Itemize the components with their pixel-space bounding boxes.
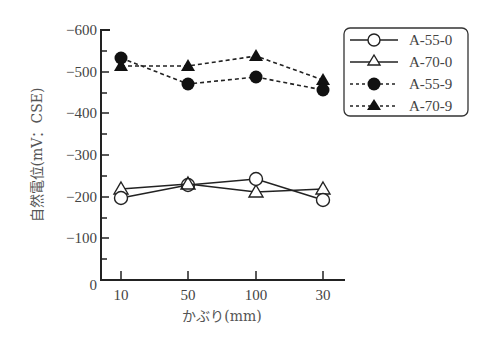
legend-label: A-55-9: [409, 76, 452, 92]
x-tick-label: 100: [245, 287, 268, 303]
x-tick-label: 50: [181, 287, 196, 303]
y-tick-label: −600: [66, 22, 97, 38]
open-triangle-marker: [316, 182, 330, 194]
series-a-55-9-markers: [115, 52, 330, 97]
series-a-70-9-line: [121, 56, 323, 80]
x-tick-label: 30: [316, 287, 331, 303]
series-a-55-0-line: [121, 179, 323, 200]
y-axis-title: 自然電位(mV：CSE): [29, 88, 45, 223]
y-tick-label: −500: [66, 64, 97, 80]
y-tick-label: −200: [66, 189, 97, 205]
series-a-70-0-line: [121, 184, 323, 192]
series-a-55-9-line: [121, 58, 323, 90]
axes: [101, 30, 345, 280]
filled-circle-icon: [368, 78, 381, 91]
open-circle-marker: [250, 173, 263, 186]
filled-triangle-marker: [249, 49, 263, 61]
legend-label: A-55-0: [409, 32, 452, 48]
y-ticks: [101, 51, 109, 259]
y-tick-label: −400: [66, 105, 97, 121]
legend: A-55-0 A-70-0 A-55-9 A-70-9: [344, 28, 468, 116]
x-ticks: [121, 271, 323, 280]
y-tick-label: −100: [66, 230, 97, 246]
chart: −600 −500 −400 −300 −200 −100 0 10 50 10…: [0, 0, 494, 345]
filled-circle-marker: [250, 71, 263, 84]
legend-label: A-70-0: [409, 54, 452, 70]
x-tick-label: 10: [114, 287, 129, 303]
filled-circle-marker: [115, 52, 128, 65]
filled-circle-marker: [182, 78, 195, 91]
y-tick-label: −300: [66, 147, 97, 163]
filled-triangle-marker: [316, 73, 330, 85]
open-circle-marker: [317, 194, 330, 207]
filled-circle-marker: [317, 84, 330, 97]
series-a-70-9-markers: [114, 49, 330, 85]
open-circle-icon: [368, 34, 380, 46]
y-tick-label: 0: [90, 277, 98, 293]
legend-label: A-70-9: [409, 98, 452, 114]
x-axis-title: かぶり(mm): [182, 308, 261, 324]
open-circle-marker: [115, 192, 128, 205]
